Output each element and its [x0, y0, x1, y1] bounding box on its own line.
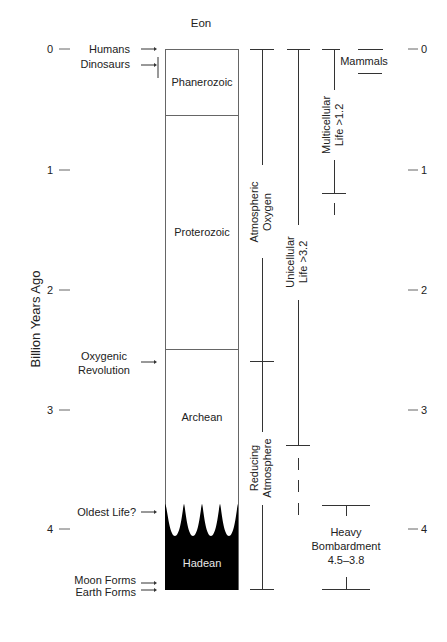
unicellular-life-line1: Unicellular	[284, 236, 296, 288]
right-tick-label-2: 2	[421, 284, 427, 296]
left-tick-label-4: 4	[47, 523, 53, 535]
unicellular-column: Unicellular Life >3.2	[284, 49, 310, 515]
event-dinosaurs: Dinosaurs	[80, 58, 130, 70]
eon-proterozoic: Proterozoic	[174, 226, 230, 238]
arrowhead-moon-forms	[154, 581, 157, 585]
event-oldest-life: Oldest Life?	[77, 506, 136, 518]
right-tick-label-3: 3	[421, 404, 427, 416]
arrowhead-oldest-life	[154, 510, 157, 514]
eon-column: Phanerozoic Proterozoic Archean Hadean	[165, 50, 239, 591]
atmosphere-column: Atmospheric Oxygen Reducing Atmosphere	[248, 49, 274, 590]
right-tick-label-4: 4	[421, 523, 427, 535]
right-tick-label-1: 1	[421, 164, 427, 176]
arrowhead-earth-forms	[154, 588, 157, 592]
left-axis: 0 1 2 3 4	[47, 43, 70, 535]
event-moon-forms: Moon Forms	[74, 574, 136, 586]
arrowhead-oxygenic-revolution	[154, 360, 157, 364]
right-tick-label-0: 0	[421, 43, 427, 55]
heavy-bombardment-range: Heavy Bombardment 4.5–3.8	[311, 505, 380, 590]
geologic-timescale-diagram: Eon Billion Years Ago 0 1 2 3 4 0 1 2 3 …	[0, 0, 447, 642]
reducing-atmosphere-line1: Reducing	[248, 445, 260, 491]
eon-phanerozoic: Phanerozoic	[171, 76, 233, 88]
left-events: Humans Dinosaurs Oxygenic Revolution Old…	[74, 43, 158, 598]
event-oxygenic-line1: Oxygenic	[81, 350, 127, 362]
column-header-eon: Eon	[191, 17, 211, 29]
left-tick-label-3: 3	[47, 404, 53, 416]
bombardment-line1: Heavy	[330, 526, 362, 538]
multicellular-life-line1: Multicellular	[320, 96, 332, 154]
eon-archean: Archean	[182, 411, 223, 423]
multicellular-column: Multicellular Life >1.2	[320, 49, 346, 215]
arrowhead-humans	[154, 47, 157, 51]
arrowhead-dinosaurs	[154, 63, 157, 67]
left-tick-label-0: 0	[47, 43, 53, 55]
multicellular-life-line2: Life >1.2	[333, 104, 345, 147]
atmospheric-oxygen-line2: Oxygen	[261, 193, 273, 231]
bombardment-line3: 4.5–3.8	[328, 554, 365, 566]
left-tick-label-2: 2	[47, 284, 53, 296]
eon-hadean: Hadean	[183, 557, 222, 569]
atmospheric-oxygen-line1: Atmospheric	[248, 181, 260, 243]
axis-title: Billion Years Ago	[28, 271, 43, 368]
reducing-atmosphere-line2: Atmosphere	[261, 438, 273, 497]
event-humans: Humans	[89, 43, 130, 55]
bombardment-line2: Bombardment	[311, 540, 380, 552]
unicellular-life-line2: Life >3.2	[297, 241, 309, 284]
mammals-label: Mammals	[340, 55, 388, 67]
right-axis: 0 1 2 3 4	[408, 43, 427, 535]
event-oxygenic-line2: Revolution	[78, 364, 130, 376]
mammals-range: Mammals	[340, 50, 388, 74]
event-earth-forms: Earth Forms	[75, 586, 136, 598]
left-tick-label-1: 1	[47, 164, 53, 176]
